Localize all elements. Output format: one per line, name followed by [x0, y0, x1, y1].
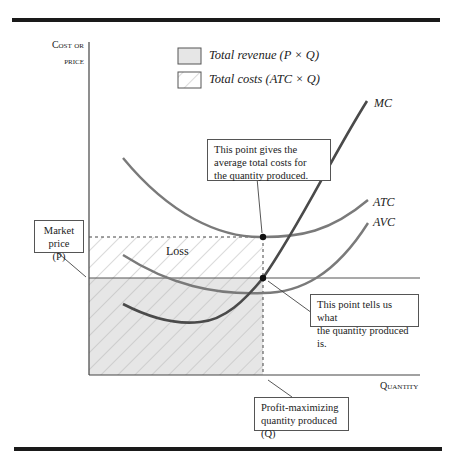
atc-point-callout: This point gives the average total costs… — [207, 139, 331, 181]
bottom-rule — [14, 447, 442, 451]
callout-line: Profit-maximizing — [261, 401, 342, 414]
callout-line: quantity produced (Q) — [261, 414, 342, 440]
market-price-callout: Market price (P) — [34, 220, 84, 253]
quantity-point-callout: This point tells us what the quantity pr… — [310, 294, 419, 327]
callout-line: the quantity produced. — [214, 169, 324, 182]
atc-label: ATC — [373, 195, 395, 210]
callout-line: average total costs for — [214, 156, 324, 169]
y-axis-label-line1: Cost or — [32, 37, 84, 53]
callout-line: price (P) — [41, 237, 77, 263]
y-axis-label: Cost or price — [32, 37, 84, 69]
legend-revenue-label: Total revenue (P × Q) — [209, 48, 319, 63]
top-rule — [12, 18, 440, 22]
legend-costs-swatch — [178, 72, 201, 88]
loss-label: Loss — [166, 244, 189, 259]
profit-max-quantity-callout: Profit-maximizing quantity produced (Q) — [254, 397, 349, 431]
x-axis-label: Quantity — [380, 380, 418, 391]
legend-costs-label: Total costs (ATC × Q) — [209, 72, 320, 87]
atc-callout-leader — [257, 178, 262, 233]
quantity-callout-leader — [268, 281, 312, 313]
callout-line: Market — [41, 224, 77, 237]
mc-label: MC — [374, 96, 392, 111]
y-axis-label-line2: price — [32, 53, 84, 69]
callout-line: This point tells us what — [317, 298, 412, 324]
callout-line: This point gives the — [214, 143, 324, 156]
atc-point — [260, 234, 266, 240]
quantity-point — [260, 275, 266, 281]
legend-revenue-swatch — [178, 48, 201, 64]
callout-line: the quantity produced is. — [317, 324, 412, 350]
q-callout-leader — [268, 380, 292, 397]
avc-label: AVC — [373, 215, 395, 230]
